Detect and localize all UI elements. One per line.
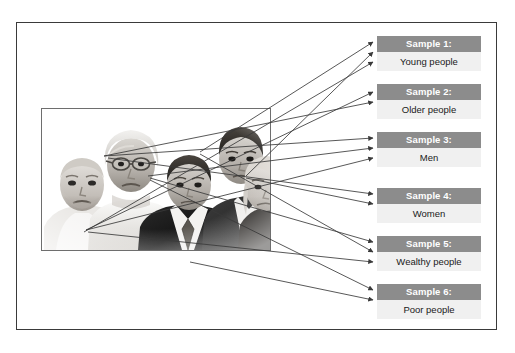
sample-box-4[interactable]: Sample 4: Women <box>377 188 481 223</box>
sample-box-5[interactable]: Sample 5: Wealthy people <box>377 236 481 271</box>
sample-2-header: Sample 2: <box>377 84 481 100</box>
sample-3-body: Men <box>377 148 481 167</box>
sample-box-3[interactable]: Sample 3: Men <box>377 132 481 167</box>
figure-canvas: Sample 1: Young people Sample 2: Older p… <box>0 0 515 353</box>
sample-4-body: Women <box>377 204 481 223</box>
sample-box-1[interactable]: Sample 1: Young people <box>377 36 481 71</box>
sample-3-header: Sample 3: <box>377 132 481 148</box>
sample-6-body: Poor people <box>377 300 481 319</box>
sample-5-body: Wealthy people <box>377 252 481 271</box>
sample-4-header: Sample 4: <box>377 188 481 204</box>
sample-1-header: Sample 1: <box>377 36 481 52</box>
sample-box-2[interactable]: Sample 2: Older people <box>377 84 481 119</box>
sample-6-header: Sample 6: <box>377 284 481 300</box>
population-photo <box>41 108 271 251</box>
sample-1-body: Young people <box>377 52 481 71</box>
sample-2-body: Older people <box>377 100 481 119</box>
sample-5-header: Sample 5: <box>377 236 481 252</box>
sample-box-6[interactable]: Sample 6: Poor people <box>377 284 481 319</box>
